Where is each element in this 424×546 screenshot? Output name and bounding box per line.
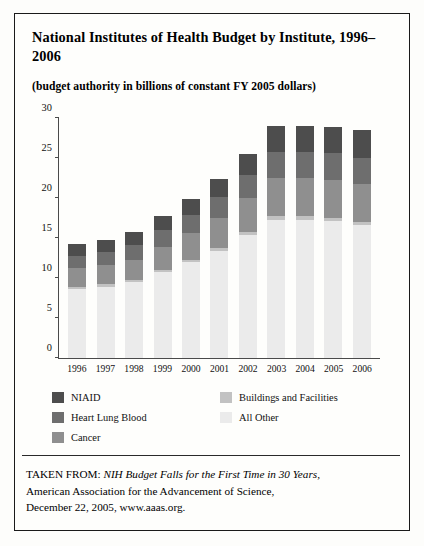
bar-segment-niaid <box>125 232 143 246</box>
bar-segment-all-other <box>239 235 257 358</box>
bar-1998 <box>125 118 143 358</box>
x-axis-label: 1996 <box>67 363 85 374</box>
figure-page: National Institutes of Health Budget by … <box>0 0 424 546</box>
bar-2005 <box>324 118 342 358</box>
source-work-title: NIH Budget Falls for the First Time in 3… <box>103 468 320 480</box>
bar-2002 <box>239 118 257 358</box>
bar-segment-niaid <box>296 126 314 152</box>
y-axis-tick-label: 25 <box>42 142 59 153</box>
x-axis-label: 1999 <box>153 363 171 374</box>
bar-segment-all-other <box>154 272 172 358</box>
source-prefix: TAKEN FROM: <box>26 468 101 480</box>
bar-segment-cancer <box>182 233 200 259</box>
bar-segment-cancer <box>125 260 143 280</box>
chart: 051015202530 199619971998199920002001200… <box>24 110 399 375</box>
y-axis-tick-mark <box>55 197 59 198</box>
x-axis-label: 1998 <box>124 363 142 374</box>
bar-segment-niaid <box>68 244 86 256</box>
bar-segment-heart-lung-blood <box>154 230 172 247</box>
bar-segment-heart-lung-blood <box>296 152 314 178</box>
bar-segment-cancer <box>97 265 115 284</box>
y-axis-tick-mark <box>55 277 59 278</box>
bar-segment-niaid <box>267 126 285 152</box>
x-axis-label: 2004 <box>296 363 314 374</box>
bar-2000 <box>182 118 200 358</box>
legend-label: Heart Lung Blood <box>71 412 147 423</box>
y-axis-tick-mark <box>55 317 59 318</box>
y-axis-tick-label: 0 <box>47 342 59 353</box>
y-axis-tick-label: 10 <box>42 262 59 273</box>
bar-2003 <box>267 118 285 358</box>
bar-segment-cancer <box>267 178 285 216</box>
bar-segment-heart-lung-blood <box>68 256 86 269</box>
bar-segment-niaid <box>324 127 342 153</box>
bar-segment-cancer <box>353 184 371 222</box>
bar-segment-heart-lung-blood <box>210 197 228 218</box>
bar-segment-all-other <box>182 262 200 358</box>
bar-2001 <box>210 118 228 358</box>
y-axis-tick-label: 20 <box>42 182 59 193</box>
y-axis-tick-label: 15 <box>42 222 59 233</box>
x-axis-label: 2006 <box>353 363 371 374</box>
bar-segment-cancer <box>68 268 86 286</box>
legend-item: NIAID <box>52 388 147 407</box>
figure-subtitle: (budget authority in billions of constan… <box>32 80 382 93</box>
plot-area: 051015202530 <box>58 118 380 359</box>
bar-segment-all-other <box>324 221 342 358</box>
bar-segment-cancer <box>296 178 314 216</box>
bar-segment-all-other <box>210 251 228 358</box>
legend-item: Heart Lung Blood <box>52 408 147 427</box>
x-axis-label: 2001 <box>210 363 228 374</box>
x-axis-label: 2002 <box>238 363 256 374</box>
legend-swatch-icon <box>52 432 64 443</box>
source-citation: TAKEN FROM: NIH Budget Falls for the Fir… <box>26 466 386 516</box>
bar-segment-cancer <box>154 247 172 270</box>
bar-segment-heart-lung-blood <box>125 245 143 259</box>
bar-1996 <box>68 118 86 358</box>
legend-column-right: Buildings and FacilitiesAll Other <box>220 388 338 428</box>
legend-label: Cancer <box>71 432 100 443</box>
bar-segment-cancer <box>210 218 228 248</box>
x-axis-labels: 1996199719981999200020012002200320042005… <box>58 363 380 374</box>
legend-label: All Other <box>239 412 279 423</box>
bar-segment-all-other <box>353 225 371 358</box>
bar-segment-heart-lung-blood <box>324 153 342 179</box>
bar-segment-all-other <box>125 282 143 358</box>
bar-segment-niaid <box>182 199 200 215</box>
bar-1997 <box>97 118 115 358</box>
x-axis-label: 1997 <box>96 363 114 374</box>
page-title: National Institutes of Health Budget by … <box>32 28 377 66</box>
bar-segment-niaid <box>239 154 257 175</box>
legend-swatch-icon <box>220 412 232 423</box>
bar-segment-niaid <box>154 216 172 230</box>
y-axis-tick-mark <box>55 157 59 158</box>
legend-swatch-icon <box>52 392 64 403</box>
legend-swatch-icon <box>52 412 64 423</box>
chart-legend: NIAIDHeart Lung BloodCancer Buildings an… <box>52 388 382 446</box>
bar-segment-all-other <box>97 287 115 358</box>
bar-segment-heart-lung-blood <box>239 175 257 198</box>
bar-segment-cancer <box>239 198 257 232</box>
y-axis-tick-mark <box>55 237 59 238</box>
legend-column-left: NIAIDHeart Lung BloodCancer <box>52 388 147 448</box>
y-axis-tick-mark <box>55 117 59 118</box>
legend-label: NIAID <box>71 392 100 403</box>
legend-swatch-icon <box>220 392 232 403</box>
bar-segment-all-other <box>68 289 86 358</box>
bar-segment-niaid <box>353 130 371 158</box>
bar-segment-heart-lung-blood <box>267 152 285 178</box>
y-axis-tick-label: 30 <box>42 102 59 113</box>
x-axis-label: 2005 <box>324 363 342 374</box>
bar-segment-niaid <box>210 179 228 197</box>
bar-segment-heart-lung-blood <box>97 252 115 266</box>
bar-segment-heart-lung-blood <box>182 215 200 233</box>
y-axis-tick-mark <box>55 357 59 358</box>
bar-group <box>59 118 380 358</box>
legend-label: Buildings and Facilities <box>239 392 338 403</box>
legend-item: All Other <box>220 408 338 427</box>
bar-segment-all-other <box>267 220 285 358</box>
legend-item: Buildings and Facilities <box>220 388 338 407</box>
bar-2006 <box>353 118 371 358</box>
bar-segment-cancer <box>324 180 342 218</box>
x-axis-label: 2000 <box>181 363 199 374</box>
